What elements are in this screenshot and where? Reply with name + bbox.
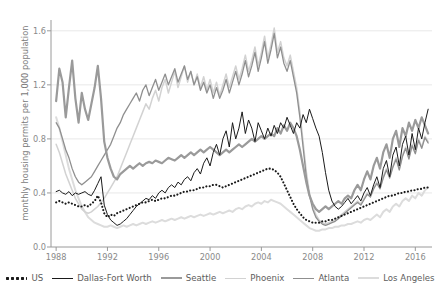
- series-line-phoenix: [56, 28, 428, 224]
- series-line-us: [56, 169, 428, 223]
- legend-swatch-icon: [161, 277, 182, 279]
- chart-figure: monthly housing permits per 1,000 popula…: [0, 0, 440, 297]
- legend-label: Dallas-Fort Worth: [77, 274, 152, 283]
- legend-swatch-icon: [293, 278, 314, 279]
- legend-item-dallas-fort-worth[interactable]: Dallas-Fort Worth: [52, 274, 152, 283]
- plot-area: [0, 0, 440, 297]
- legend-swatch-icon: [225, 278, 246, 279]
- legend-label: Los Angeles: [383, 274, 434, 283]
- legend-label: Atlanta: [318, 274, 349, 283]
- legend-label: US: [31, 274, 43, 283]
- legend-swatch-icon: [5, 277, 27, 280]
- legend-item-us[interactable]: US: [5, 274, 43, 283]
- series-line-atlanta: [56, 34, 428, 226]
- legend-swatch-icon: [52, 278, 73, 279]
- legend-swatch-icon: [358, 277, 379, 279]
- legend-item-phoenix[interactable]: Phoenix: [225, 274, 284, 283]
- legend-label: Seattle: [186, 274, 216, 283]
- legend-item-los-angeles[interactable]: Los Angeles: [358, 274, 434, 283]
- chart-legend: USDallas-Fort WorthSeattlePhoenixAtlanta…: [0, 274, 440, 283]
- legend-item-seattle[interactable]: Seattle: [161, 274, 216, 283]
- legend-label: Phoenix: [250, 274, 284, 283]
- legend-item-atlanta[interactable]: Atlanta: [293, 274, 349, 283]
